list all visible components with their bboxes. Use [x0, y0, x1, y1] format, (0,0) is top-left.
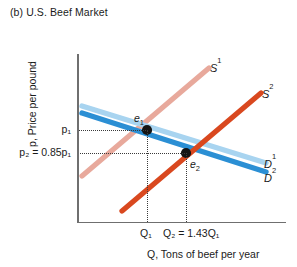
x-tick-label-q2: Q₂ = 1.43Q₁: [163, 227, 219, 239]
equilibrium-label-e2: e2: [190, 158, 200, 173]
guide-line-p1: [78, 130, 148, 131]
supply-curve-2: [122, 93, 261, 211]
x-axis-title: Q, Tons of beef per year: [147, 248, 259, 260]
curve-label-supply-1: S1: [210, 60, 222, 74]
equilibrium-label-e1: e1: [134, 112, 144, 127]
curve-label-demand-1-text: D: [264, 158, 272, 170]
x-axis-line: [77, 222, 286, 224]
y-tick-label-p1: p₁: [62, 123, 71, 135]
y-tick-label-p2: p₂ = 0.85p₁: [19, 146, 71, 158]
equilibrium-label-e1-subscript: 1: [140, 118, 144, 127]
curve-label-demand-2-superscript: 2: [272, 166, 276, 175]
guide-line-p2: [78, 153, 187, 154]
y-axis-line: [77, 54, 79, 223]
curve-label-supply-2: S2: [262, 86, 274, 100]
curve-label-demand-2-text: D: [264, 172, 272, 184]
curve-label-supply-1-superscript: 1: [217, 56, 221, 65]
demand-curve-2: [82, 113, 266, 172]
guide-line-q2: [186, 153, 187, 222]
curve-label-demand-2: D2: [264, 170, 276, 184]
curve-label-supply-2-superscript: 2: [269, 82, 273, 91]
equilibrium-label-e2-subscript: 2: [196, 164, 200, 173]
guide-line-q1: [147, 130, 148, 222]
x-tick-label-q1: Q₁: [140, 227, 152, 239]
curve-label-demand-1-superscript: 1: [272, 152, 276, 161]
figure-panel: (b) U.S. Beef Market p, Price per pound …: [0, 0, 297, 267]
